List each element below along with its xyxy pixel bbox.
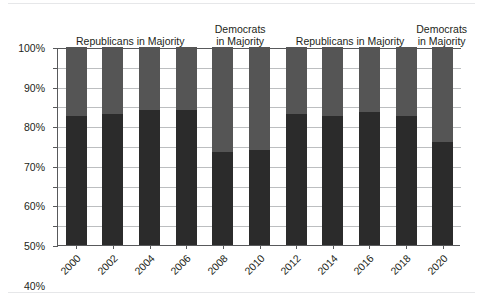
bar-segment-upper (102, 47, 123, 114)
x-axis-tick (223, 245, 224, 249)
bar-segment-lower (322, 116, 343, 245)
y-axis-tick: 40% (53, 167, 58, 168)
bar-segment-upper (286, 47, 307, 114)
bar-segment-upper (396, 47, 417, 116)
bar-2012 (286, 47, 307, 245)
bar-2018 (396, 47, 417, 245)
y-axis-tick: 90% (53, 68, 58, 69)
bar-segment-lower (176, 110, 197, 245)
bottom-divider-rule (8, 292, 475, 293)
bar-2020 (432, 47, 453, 245)
x-axis-tick (150, 245, 151, 249)
y-axis-tick: 100% (53, 48, 58, 49)
bar-segment-lower (249, 150, 270, 245)
y-axis-label: 90% (24, 82, 45, 94)
bar-segment-lower (432, 142, 453, 245)
bar-segment-upper (66, 47, 87, 116)
y-axis-tick: 80% (53, 88, 58, 89)
bar-segment-upper (432, 47, 453, 142)
bar-2004 (139, 47, 160, 245)
bar-segment-lower (212, 152, 233, 245)
y-axis-tick: 50% (53, 147, 58, 148)
x-axis-label-2010: 2010 (241, 252, 266, 277)
y-axis-label: 80% (24, 121, 45, 133)
x-axis-label-2004: 2004 (131, 252, 156, 277)
bar-segment-upper (212, 47, 233, 152)
x-axis-tick (406, 245, 407, 249)
x-axis-label-2018: 2018 (388, 252, 413, 277)
y-axis-tick: 30% (53, 187, 58, 188)
y-axis-tick: 60% (53, 127, 58, 128)
bar-segment-upper (139, 47, 160, 110)
bar-2010 (249, 47, 270, 245)
bar-segment-lower (396, 116, 417, 245)
x-axis-tick (260, 245, 261, 249)
x-axis-label-2020: 2020 (425, 252, 450, 277)
x-axis-label-2002: 2002 (95, 252, 120, 277)
y-axis-label: 100% (18, 42, 45, 54)
bar-segment-upper (359, 47, 380, 112)
y-axis-tick: 10% (53, 226, 58, 227)
bar-2002 (102, 47, 123, 245)
x-axis-tick (113, 245, 114, 249)
y-axis-label: 50% (24, 240, 45, 252)
x-axis-label-2012: 2012 (278, 252, 303, 277)
bar-segment-lower (286, 114, 307, 245)
majority-annotations: Republicans in MajorityDemocrats in Majo… (0, 10, 483, 48)
x-axis-label-2008: 2008 (205, 252, 230, 277)
x-axis-tick (333, 245, 334, 249)
bar-2006 (176, 47, 197, 245)
x-axis-tick (76, 245, 77, 249)
bar-segment-upper (249, 47, 270, 150)
bar-segment-upper (322, 47, 343, 116)
x-axis-tick (296, 245, 297, 249)
x-axis-label-2014: 2014 (315, 252, 340, 277)
bar-segment-upper (176, 47, 197, 110)
y-axis-tick: 0% (53, 246, 58, 247)
top-divider-rule (8, 3, 475, 4)
x-axis-label-2016: 2016 (351, 252, 376, 277)
plot-area: 0%10%20%30%40%50%60%70%80%90%100% (57, 48, 460, 246)
bar-2016 (359, 47, 380, 245)
y-axis-label: 40% (24, 280, 45, 292)
bar-segment-lower (359, 112, 380, 245)
bar-segment-lower (139, 110, 160, 245)
x-axis-label-2006: 2006 (168, 252, 193, 277)
y-axis-label: 70% (24, 161, 45, 173)
bar-segment-lower (102, 114, 123, 245)
y-axis-tick: 20% (53, 206, 58, 207)
bar-2014 (322, 47, 343, 245)
x-axis-tick (443, 245, 444, 249)
chart-figure: Republicans in MajorityDemocrats in Majo… (0, 0, 483, 302)
y-axis-tick: 70% (53, 107, 58, 108)
bar-2000 (66, 47, 87, 245)
x-axis-tick (186, 245, 187, 249)
x-axis-tick (369, 245, 370, 249)
bar-2008 (212, 47, 233, 245)
annotation-majority-label: Democrats in Majority (367, 23, 483, 48)
x-axis-label-2000: 2000 (58, 252, 83, 277)
y-axis-label: 60% (24, 200, 45, 212)
bar-segment-lower (66, 116, 87, 245)
